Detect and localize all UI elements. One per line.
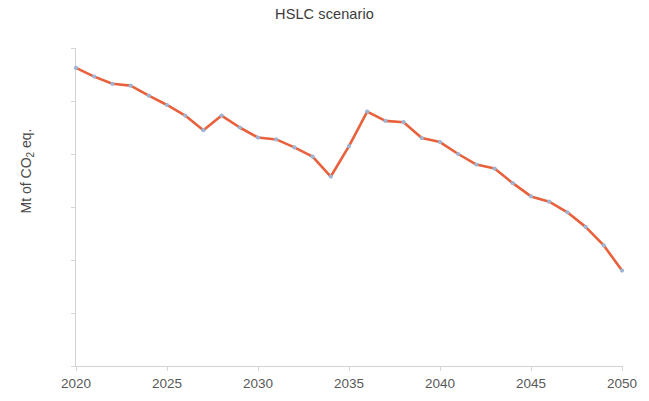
data-point-marker: [347, 144, 351, 148]
data-point-marker: [201, 128, 205, 132]
data-point-marker: [402, 120, 406, 124]
data-point-marker: [220, 113, 224, 117]
y-axis-title-main: Mt of CO: [18, 157, 34, 213]
data-point-marker: [92, 75, 96, 79]
data-point-marker: [474, 163, 478, 167]
x-tick-mark: [622, 366, 623, 371]
data-series-line: [76, 48, 622, 366]
data-point-marker: [329, 174, 333, 178]
data-point-marker: [438, 140, 442, 144]
data-point-marker: [129, 84, 133, 88]
data-point-marker: [365, 110, 369, 114]
x-tick-label: 2050: [587, 376, 649, 391]
x-tick-label: 2020: [41, 376, 111, 391]
y-axis-title-tail: eq.: [18, 129, 34, 152]
data-point-marker: [183, 113, 187, 117]
series-polyline: [76, 68, 622, 271]
x-tick-mark: [167, 366, 168, 371]
chart-figure: HSLC scenario Mt of CO2 eq. 020040060080…: [0, 0, 649, 401]
data-point-marker: [584, 225, 588, 229]
series-markers: [74, 66, 624, 273]
data-point-marker: [511, 181, 515, 185]
chart-title: HSLC scenario: [0, 6, 649, 22]
data-point-marker: [620, 269, 624, 273]
data-point-marker: [274, 137, 278, 141]
x-tick-mark: [349, 366, 350, 371]
x-tick-mark: [76, 366, 77, 371]
plot-area: 020040060080010001200 202020252030203520…: [76, 48, 622, 366]
data-point-marker: [456, 152, 460, 156]
data-point-marker: [602, 243, 606, 247]
data-point-marker: [238, 125, 242, 129]
data-point-marker: [147, 94, 151, 98]
data-point-marker: [383, 119, 387, 123]
data-point-marker: [165, 103, 169, 107]
data-point-marker: [74, 66, 78, 70]
x-tick-mark: [531, 366, 532, 371]
data-point-marker: [256, 135, 260, 139]
data-point-marker: [110, 82, 114, 86]
x-tick-mark: [440, 366, 441, 371]
x-tick-mark: [258, 366, 259, 371]
data-point-marker: [529, 194, 533, 198]
x-tick-label: 2045: [496, 376, 566, 391]
data-point-marker: [311, 155, 315, 159]
y-axis-title: Mt of CO2 eq.: [18, 71, 34, 271]
data-point-marker: [292, 145, 296, 149]
data-point-marker: [547, 200, 551, 204]
y-axis-title-subscript: 2: [25, 152, 36, 158]
x-tick-label: 2030: [223, 376, 293, 391]
x-tick-label: 2040: [405, 376, 475, 391]
data-point-marker: [565, 210, 569, 214]
data-point-marker: [420, 136, 424, 140]
data-point-marker: [493, 166, 497, 170]
x-tick-label: 2025: [132, 376, 202, 391]
x-tick-label: 2035: [314, 376, 384, 391]
